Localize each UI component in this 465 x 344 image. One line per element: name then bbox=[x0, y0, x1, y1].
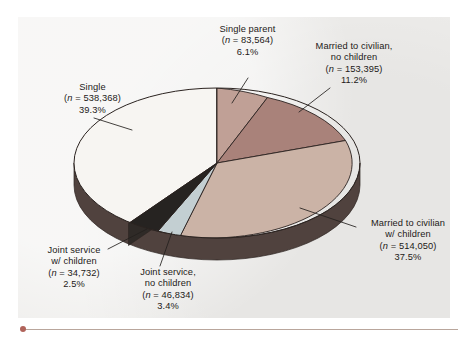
label-single-parent-line2: (n = 83,564) bbox=[195, 35, 300, 46]
label-single-line1: Single bbox=[25, 82, 160, 93]
label-single: Single (n = 538,368) 39.3% bbox=[25, 82, 160, 116]
label-married-no-children-line1: Married to civilian, bbox=[293, 41, 415, 52]
label-married-with-children-line3: 37.5% bbox=[352, 252, 464, 263]
footer-rule bbox=[22, 329, 458, 330]
label-single-line2: (n = 538,368) bbox=[25, 93, 160, 104]
label-single-line3: 39.3% bbox=[25, 105, 160, 116]
label-married-with-children-line1b: w/ children bbox=[352, 229, 464, 240]
label-joint-service-no-children: Joint service, no children (n = 46,834) … bbox=[116, 267, 220, 313]
label-married-with-children-line2: (n = 514,050) bbox=[352, 241, 464, 252]
label-married-no-children-line3: 11.2% bbox=[293, 75, 415, 86]
label-single-parent-line3: 6.1% bbox=[195, 47, 300, 58]
label-married-civilian-no-children: Married to civilian, no children (n = 15… bbox=[293, 41, 415, 87]
label-joint-no-children-line1: Joint service, bbox=[116, 267, 220, 278]
label-joint-with-children-line3: 2.5% bbox=[24, 279, 124, 290]
label-married-no-children-line1b: no children bbox=[293, 52, 415, 63]
label-joint-no-children-line1b: no children bbox=[116, 278, 220, 289]
label-joint-no-children-line2: (n = 46,834) bbox=[116, 290, 220, 301]
label-single-parent: Single parent (n = 83,564) 6.1% bbox=[195, 24, 300, 58]
figure-container: Single (n = 538,368) 39.3% Single parent… bbox=[0, 0, 465, 344]
footer-rule-dot bbox=[20, 326, 26, 332]
label-joint-with-children-line2: (n = 34,732) bbox=[24, 268, 124, 279]
label-joint-no-children-line3: 3.4% bbox=[116, 301, 220, 312]
label-joint-with-children-line1: Joint service bbox=[24, 245, 124, 256]
label-married-civilian-with-children: Married to civilian w/ children (n = 514… bbox=[352, 218, 464, 264]
label-married-with-children-line1: Married to civilian bbox=[352, 218, 464, 229]
label-joint-with-children-line1b: w/ children bbox=[24, 256, 124, 267]
label-joint-service-with-children: Joint service w/ children (n = 34,732) 2… bbox=[24, 245, 124, 291]
label-single-parent-line1: Single parent bbox=[195, 24, 300, 35]
label-married-no-children-line2: (n = 153,395) bbox=[293, 64, 415, 75]
